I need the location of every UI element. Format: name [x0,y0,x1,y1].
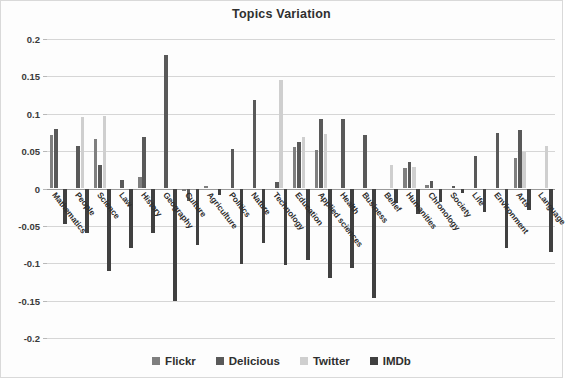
bar-slot [160,39,164,338]
bar-group [246,39,268,338]
bar[interactable] [293,147,297,189]
bar-slot [439,39,443,338]
bar[interactable] [302,137,306,189]
bar[interactable] [545,146,549,189]
bar[interactable] [164,55,168,188]
bar[interactable] [279,80,283,188]
bar[interactable] [142,137,146,189]
bar-group [157,39,179,338]
legend-item[interactable]: IMDb [370,355,411,367]
bar-slot [63,39,67,338]
bar-slot [103,39,107,338]
bar[interactable] [218,189,222,196]
bar-group [290,39,312,338]
bar[interactable] [231,149,235,189]
plot-area: 0.20.150.10.050-0.05-0.1-0.15-0.2 [47,39,555,338]
bar[interactable] [324,134,328,189]
bar-slot [204,39,208,338]
legend-label: Delicious [229,355,280,367]
bar-slot [85,39,89,338]
bar[interactable] [363,135,367,189]
bar[interactable] [430,181,434,188]
bar-slot [394,39,398,338]
bar-slot [306,39,310,338]
y-axis-tick-label: -0.1 [24,258,40,269]
bar-slot [500,39,504,338]
bar-group [180,39,202,338]
bar-group [224,39,246,338]
bar[interactable] [204,186,208,189]
bar[interactable] [94,139,98,188]
bar-slot [319,39,323,338]
bar-slot [324,39,328,338]
bar-slot [262,39,266,338]
bar-group [445,39,467,338]
bar-group [334,39,356,338]
bar[interactable] [319,119,323,189]
bar[interactable] [103,116,107,189]
bar[interactable] [425,185,429,189]
bar-slot [125,39,129,338]
legend-item[interactable]: Flickr [152,355,196,367]
bar-group [113,39,135,338]
bar-slot [235,39,239,338]
bar[interactable] [474,156,478,189]
bar-slot [138,39,142,338]
bar-group [511,39,533,338]
bar-slot [549,39,553,338]
bar-slot [81,39,85,338]
bar[interactable] [138,177,142,189]
bar[interactable] [50,135,54,188]
bar[interactable] [297,142,301,188]
bar-slot [350,39,354,338]
bar-slot [98,39,102,338]
bar-slot [368,39,372,338]
bar-slot [284,39,288,338]
bar[interactable] [522,152,526,189]
bar[interactable] [412,167,416,189]
bar[interactable] [98,165,102,188]
bar-slot [514,39,518,338]
legend-item[interactable]: Twitter [300,355,350,367]
legend-label: Flickr [165,355,196,367]
bar-slot [522,39,526,338]
bar[interactable] [275,182,279,189]
bar[interactable] [120,180,124,188]
y-axis-tick-label: 0.2 [27,34,40,45]
bar-slot [416,39,420,338]
bar[interactable] [341,119,345,189]
bar-series-area [47,39,555,338]
bar-slot [297,39,301,338]
bar[interactable] [182,189,186,191]
bar[interactable] [461,189,465,193]
bar-slot [107,39,111,338]
bar-slot [483,39,487,338]
bar[interactable] [514,158,518,189]
bar-slot [248,39,252,338]
bar[interactable] [403,168,407,188]
bar-slot [425,39,429,338]
bar-group [378,39,400,338]
legend-swatch-icon [300,357,308,365]
y-axis-tick-mark [43,338,47,339]
bar[interactable] [76,146,80,189]
bar-group [91,39,113,338]
bar[interactable] [496,133,500,188]
bar-group [202,39,224,338]
y-axis-tick-label: 0.1 [27,108,40,119]
bar[interactable] [54,129,58,188]
bar-slot [385,39,389,338]
bar[interactable] [452,186,456,188]
bar[interactable] [408,162,412,189]
bar-slot [469,39,473,338]
bar[interactable] [253,100,257,189]
legend-label: IMDb [383,355,411,367]
bar-slot [94,39,98,338]
bar[interactable] [81,117,85,188]
bar[interactable] [518,130,522,188]
legend-item[interactable]: Delicious [216,355,280,367]
bar[interactable] [390,165,394,188]
bar-slot [231,39,235,338]
bar-slot [218,39,222,338]
bar[interactable] [315,150,319,189]
